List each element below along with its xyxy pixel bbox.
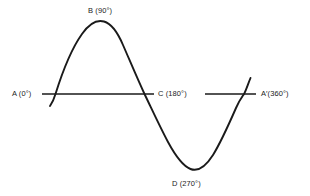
point-label-a-prime: A′(360°) (261, 90, 289, 98)
sine-wave-figure: A (0°) B (90°) C (180°) A′(360°) D (270°… (0, 0, 310, 196)
sine-wave-drawing (0, 0, 310, 196)
sine-curve-path (50, 21, 251, 170)
point-label-b: B (90°) (88, 7, 112, 15)
point-label-a: A (0°) (12, 90, 31, 98)
point-label-d: D (270°) (172, 180, 201, 188)
point-label-c: C (180°) (158, 90, 187, 98)
